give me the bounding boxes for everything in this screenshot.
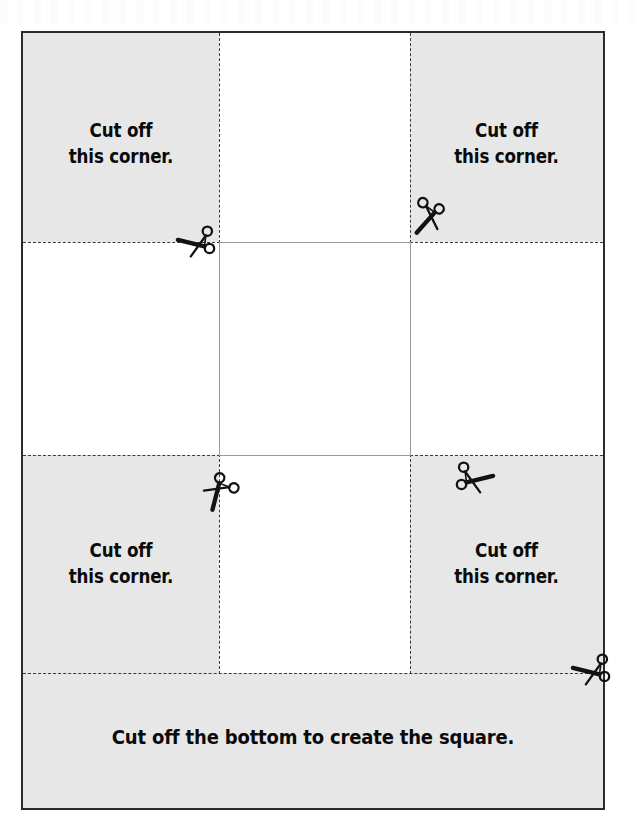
fold-line-horizontal-lower [219,455,411,456]
label-corner-bottom-right: Cut off this corner. [422,538,592,589]
cut-guide-horizontal-bottom [23,673,603,674]
worksheet-sheet: Cut off this corner. Cut off this corner… [21,31,605,810]
scissors-icon-mid-right [450,455,496,501]
cut-guide-horizontal-lower-right [410,455,603,456]
page-canvas: Cut off this corner. Cut off this corner… [0,0,636,839]
fold-line-horizontal-upper [219,242,411,243]
label-corner-top-right: Cut off this corner. [422,118,592,169]
scissors-icon-bottom-right [570,647,616,693]
fold-line-vertical-right [410,242,411,455]
cut-guide-vertical-left-top [219,33,220,243]
label-bottom-strip: Cut off the bottom to create the square. [52,725,574,749]
scissors-icon-top-left [175,219,221,265]
fold-line-vertical-left [219,242,220,455]
cut-guide-horizontal-lower-left [23,455,220,456]
label-corner-bottom-left: Cut off this corner. [35,538,207,589]
scan-noise [0,0,636,24]
cut-guide-vertical-right-bottom [410,454,411,674]
label-corner-top-left: Cut off this corner. [35,118,207,169]
